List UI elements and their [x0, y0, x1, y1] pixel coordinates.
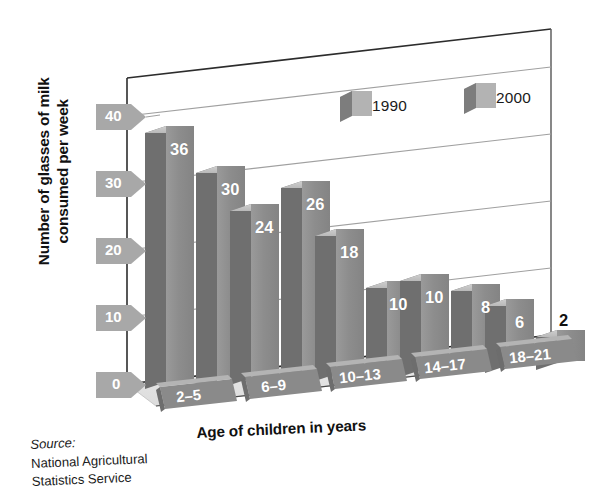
y-tick-label-0: 0 [112, 375, 120, 392]
legend-label-2000: 2000 [496, 89, 531, 107]
x-category-label-2-5: 2–5 [175, 386, 202, 406]
bar-value-1990-18-21: 6 [515, 313, 524, 332]
bar-chart: Number of glasses of milk consumed per w… [0, 0, 598, 504]
x-category-label-6-9: 6–9 [260, 376, 287, 396]
bar-value-1990-2-5: 36 [170, 140, 188, 159]
bar-value-2000-6-9: 26 [306, 195, 324, 214]
bar-value-2000-2-5: 30 [221, 180, 239, 199]
y-tick-label-30: 30 [105, 174, 122, 191]
y-tick-label-10: 10 [105, 308, 122, 325]
bar-value-2000-14-17: 8 [481, 298, 490, 317]
legend-label-1990: 1990 [372, 97, 407, 115]
bar-value-2000-18-21: 2 [559, 311, 568, 330]
bar-1990-2-5[interactable] [145, 124, 194, 391]
bar-value-2000-10-13: 10 [389, 295, 407, 314]
y-axis-title: Number of glasses of milk consumed per w… [34, 21, 73, 321]
bar-value-1990-10-13: 18 [340, 243, 358, 262]
y-tick-label-40: 40 [105, 107, 122, 124]
bar-value-1990-14-17: 10 [425, 288, 443, 307]
bar-value-1990-6-9: 24 [255, 218, 273, 237]
source-note: Source: National Agricultural Statistics… [30, 431, 149, 492]
y-tick-label-20: 20 [105, 241, 122, 258]
